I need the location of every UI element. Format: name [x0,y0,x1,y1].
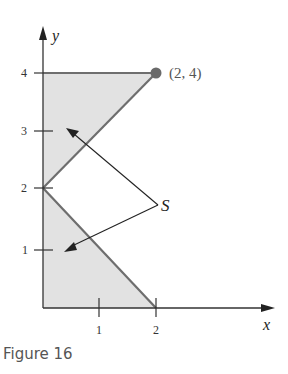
x-axis-label: x [262,316,270,333]
figure-caption: Figure 16 [3,345,73,363]
point-2-4 [151,68,162,79]
annotation-arrow-upper [74,134,158,205]
y-tick-label-1: 1 [22,243,28,257]
region-label-s: S [161,196,170,215]
y-tick-label-4: 4 [21,66,27,80]
y-tick-label-3: 3 [21,124,27,138]
x-tick-label-1: 1 [96,323,102,337]
x-axis-arrow-icon [261,304,275,312]
y-axis-arrow-icon [39,26,47,40]
y-tick-label-2: 2 [21,181,27,195]
figure-graph: 1 2 3 4 1 2 y x (2, 4) S [0,0,288,374]
point-label: (2, 4) [169,65,202,82]
x-tick-label-2: 2 [153,323,159,337]
y-axis-label: y [50,27,60,45]
annotation-arrow-lower [72,205,158,246]
